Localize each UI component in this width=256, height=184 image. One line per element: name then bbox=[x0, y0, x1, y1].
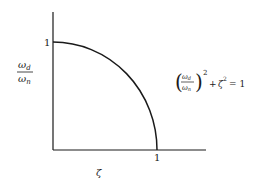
equation-annotation: ( ωd ωn ) 2 + ζ 2 = 1 bbox=[175, 69, 245, 94]
y-axis-label: ωd ωn bbox=[17, 59, 33, 86]
svg-text:= 1: = 1 bbox=[229, 79, 245, 89]
diagram-canvas: 1 ωd ωn 1 ζ ( ωd ωn ) 2 + ζ 2 = 1 bbox=[0, 0, 256, 184]
svg-text:2: 2 bbox=[223, 75, 227, 82]
svg-text:ωd: ωd bbox=[182, 73, 191, 81]
svg-text:): ) bbox=[195, 70, 203, 94]
x-axis-label: ζ bbox=[96, 167, 102, 178]
svg-text:ωn: ωn bbox=[182, 84, 191, 92]
x-tick-1: 1 bbox=[154, 152, 160, 163]
quarter-circle-curve bbox=[53, 42, 157, 150]
svg-text:ωd: ωd bbox=[18, 59, 31, 72]
y-tick-1: 1 bbox=[44, 37, 50, 48]
svg-text:+: + bbox=[209, 79, 217, 89]
svg-text:ωn: ωn bbox=[18, 73, 31, 86]
svg-text:2: 2 bbox=[203, 69, 207, 77]
